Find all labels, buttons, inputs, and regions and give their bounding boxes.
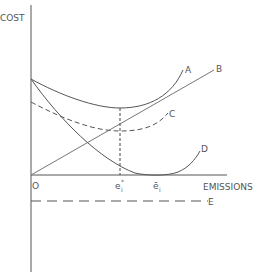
y-axis-label: COST xyxy=(0,13,25,23)
unregulated-emissions-label: ē i xyxy=(153,181,161,193)
svg-text:i: i xyxy=(159,186,161,193)
curve-d-label: D xyxy=(201,144,208,154)
x-axis-label: EMISSIONS xyxy=(203,182,253,192)
svg-text:*: * xyxy=(121,178,124,185)
optimal-emissions-label: e * i xyxy=(115,178,124,193)
curve-c-label: C xyxy=(169,109,175,119)
cost-emissions-diagram: COST EMISSIONS O A B C D E e * i ē i xyxy=(0,0,259,278)
svg-text:i: i xyxy=(121,186,123,193)
curve-a xyxy=(31,70,183,108)
curve-b-label: B xyxy=(216,64,222,74)
curve-e-label: E xyxy=(208,197,214,207)
curve-a-label: A xyxy=(185,65,192,75)
origin-label: O xyxy=(32,181,39,191)
curve-b xyxy=(31,70,214,175)
